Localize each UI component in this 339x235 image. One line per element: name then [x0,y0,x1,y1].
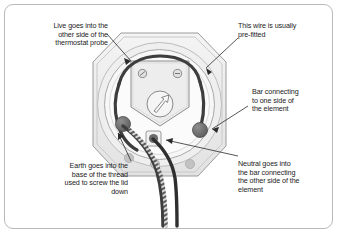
callout-live: Live goes into the other side of the the… [16,22,108,48]
terminal-screw-right [173,69,181,77]
rivet-right [185,159,194,168]
terminal-screw-left [138,69,146,77]
callout-bar-one-side: Bar connecting to one side of the elemen… [252,88,336,114]
callout-earth: Earth goes into the base of the thread u… [18,162,128,196]
arrow-emblem [147,91,173,117]
callout-prefitted: This wire is usually pre-fitted [238,22,334,39]
callout-neutral: Neutral goes into the bar connecting the… [238,160,334,194]
bar-terminal-right [193,123,208,138]
wiring-diagram: Live goes into the other side of the the… [0,0,339,235]
